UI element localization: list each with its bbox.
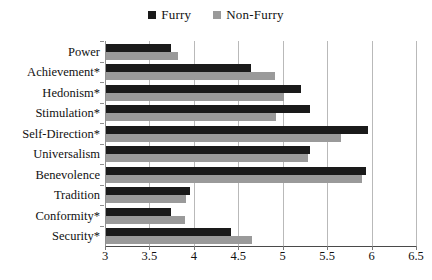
- bar-group: [105, 228, 416, 244]
- chart-legend: Furry Non-Furry: [0, 8, 432, 21]
- y-axis-tick: [100, 103, 104, 104]
- bar-non-furry: [105, 113, 276, 121]
- bar-furry: [105, 105, 310, 113]
- square-marker-icon: [213, 11, 221, 19]
- bar-furry: [105, 208, 171, 216]
- x-axis-tick-label: 5: [280, 250, 286, 263]
- y-axis-label: Self-Direction*: [1, 128, 105, 141]
- y-axis-tick: [100, 164, 104, 165]
- bar-group: [105, 44, 416, 60]
- bar-furry: [105, 126, 368, 134]
- y-axis-labels: PowerAchievement*Hedonism*Stimulation*Se…: [0, 41, 105, 246]
- y-axis-tick: [100, 185, 104, 186]
- y-axis-label: Power: [1, 46, 105, 59]
- bar-non-furry: [105, 216, 185, 224]
- y-axis-label: Tradition: [1, 189, 105, 202]
- y-axis-label: Benevolence: [1, 169, 105, 182]
- bar-group: [105, 208, 416, 224]
- x-axis-line: [105, 246, 416, 247]
- bar-furry: [105, 85, 301, 93]
- bar-non-furry: [105, 72, 275, 80]
- x-axis-tick-label: 4.5: [230, 250, 246, 263]
- bar-furry: [105, 187, 190, 195]
- bar-non-furry: [105, 134, 341, 142]
- x-axis-tick-label: 6.5: [408, 250, 424, 263]
- bar-furry: [105, 64, 251, 72]
- bar-non-furry: [105, 93, 284, 101]
- legend-item-non-furry: Non-Furry: [213, 8, 283, 21]
- x-axis-tick-label: 6: [368, 250, 374, 263]
- bar-group: [105, 105, 416, 121]
- x-axis-tick-label: 3: [102, 250, 108, 263]
- y-axis-tick: [100, 123, 104, 124]
- y-axis-tick: [100, 62, 104, 63]
- x-axis-tick-label: 5.5: [319, 250, 335, 263]
- bar-non-furry: [105, 52, 178, 60]
- bar-group: [105, 167, 416, 183]
- bar-group: [105, 187, 416, 203]
- y-axis-label: Security*: [1, 230, 105, 243]
- bar-non-furry: [105, 236, 252, 244]
- bar-group: [105, 64, 416, 80]
- y-axis-label: Universalism: [1, 148, 105, 161]
- legend-item-furry: Furry: [148, 8, 191, 21]
- x-axis-tick-labels: 33.544.555.566.5: [105, 250, 416, 270]
- y-axis-tick: [100, 226, 104, 227]
- bar-furry: [105, 228, 231, 236]
- bar-group: [105, 126, 416, 142]
- legend-label-non-furry: Non-Furry: [226, 8, 283, 21]
- bar-non-furry: [105, 195, 186, 203]
- y-axis-line: [105, 41, 106, 246]
- y-axis-label: Achievement*: [1, 66, 105, 79]
- x-axis-tick-label: 3.5: [142, 250, 158, 263]
- bar-non-furry: [105, 175, 362, 183]
- bar-furry: [105, 44, 171, 52]
- y-axis-tick: [100, 205, 104, 206]
- bar-group: [105, 146, 416, 162]
- y-axis-tick: [100, 41, 104, 42]
- bar-furry: [105, 146, 310, 154]
- y-axis-label: Hedonism*: [1, 87, 105, 100]
- x-axis-tick-label: 4: [191, 250, 197, 263]
- bar-group: [105, 85, 416, 101]
- bar-furry: [105, 167, 366, 175]
- gridline: [416, 41, 417, 246]
- bar-non-furry: [105, 154, 308, 162]
- y-axis-tick: [100, 82, 104, 83]
- y-axis-label: Conformity*: [1, 210, 105, 223]
- y-axis-tick: [100, 144, 104, 145]
- y-axis-label: Stimulation*: [1, 107, 105, 120]
- plot-area: [105, 41, 416, 246]
- legend-label-furry: Furry: [161, 8, 191, 21]
- square-marker-icon: [148, 11, 156, 19]
- bar-chart: Furry Non-Furry PowerAchievement*Hedonis…: [0, 0, 432, 280]
